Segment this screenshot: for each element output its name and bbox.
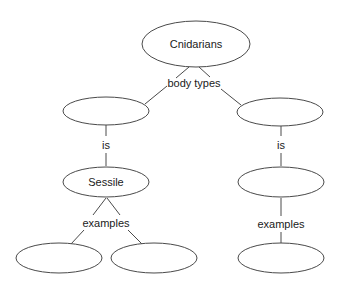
- connector-root-bodytypes-right: [199, 67, 210, 77]
- concept-map: Cnidarians Sessile: [0, 0, 341, 288]
- node-body-left: [63, 97, 149, 125]
- node-sessile-label: Sessile: [88, 176, 123, 188]
- connector-examples-exleft1: [71, 230, 84, 244]
- connector-sessile-examples-left: [93, 198, 106, 215]
- node-ex-left-1: [16, 243, 102, 273]
- link-label-is-left: is: [102, 139, 110, 151]
- node-right-mid: [238, 167, 324, 197]
- node-sessile: Sessile: [63, 167, 149, 197]
- connector-examples-exleft2: [128, 230, 142, 244]
- concept-map-svg: Cnidarians Sessile: [0, 0, 341, 288]
- node-ex-right: [238, 243, 324, 273]
- link-label-examples-right: examples: [257, 218, 305, 230]
- link-label-is-right: is: [277, 139, 285, 151]
- connector-bodytypes-right: [221, 89, 241, 105]
- node-root: Cnidarians: [142, 21, 250, 67]
- connector-sessile-examples-right: [107, 198, 120, 215]
- connector-bodytypes-left: [145, 86, 167, 104]
- node-root-label: Cnidarians: [170, 38, 223, 50]
- link-label-examples-left: examples: [82, 217, 130, 229]
- node-ex-left-2: [111, 243, 197, 273]
- node-body-right: [237, 98, 323, 126]
- link-label-body-types: body types: [167, 77, 221, 89]
